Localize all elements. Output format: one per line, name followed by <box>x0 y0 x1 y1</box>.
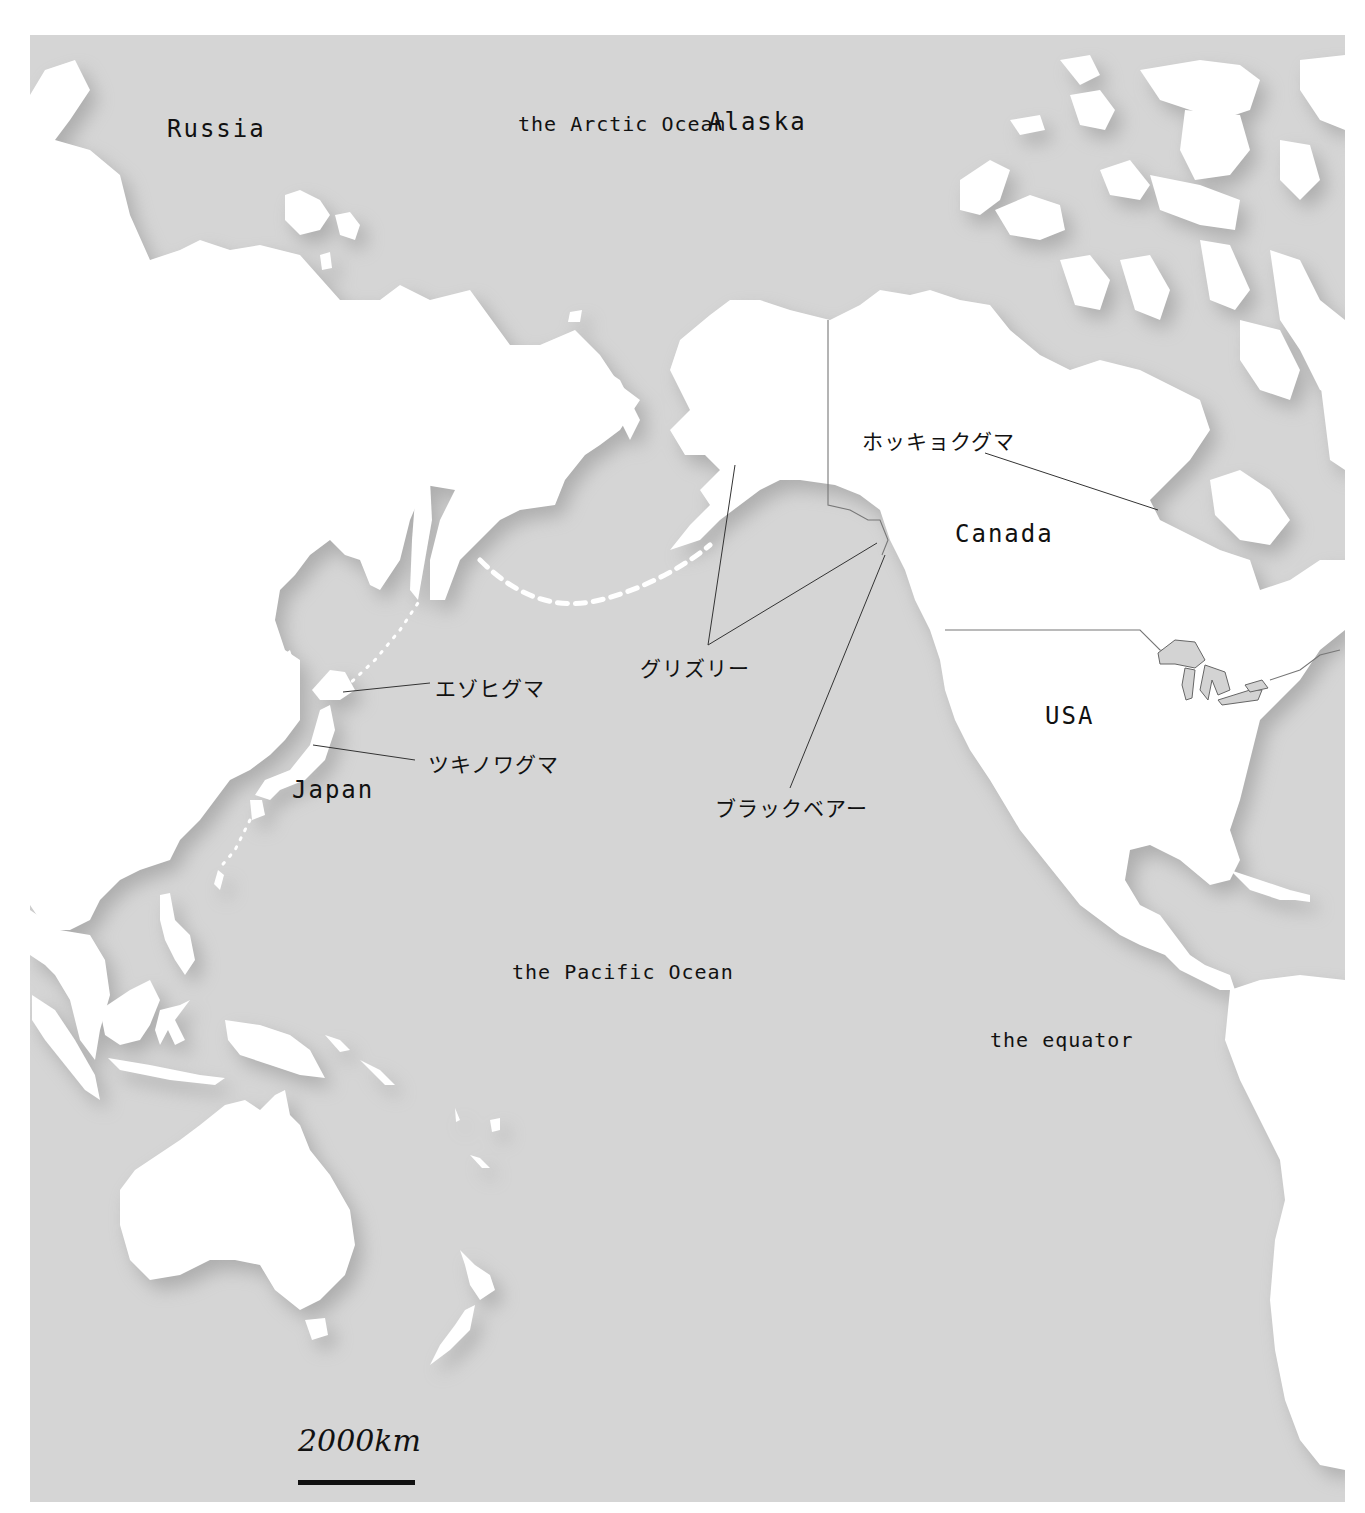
grizzly-leader-2 <box>708 543 877 645</box>
kuril-islands <box>345 600 420 688</box>
map-graphic <box>30 35 1345 1502</box>
ryukyu-islands <box>218 820 250 870</box>
japan-label: Japan <box>292 776 374 804</box>
aleutian-islands <box>480 545 710 604</box>
pacific-ocean-label: the Pacific Ocean <box>512 960 734 984</box>
grizzly-label: グリズリー <box>640 652 750 682</box>
equator-label: the equator <box>990 1028 1133 1052</box>
scale-bar <box>298 1480 415 1485</box>
usa-label: USA <box>1045 702 1094 730</box>
ezo-brown-bear-label: エゾヒグマ <box>435 672 545 702</box>
asian-black-bear-label: ツキノワグマ <box>428 748 559 778</box>
scale-label: 2000km <box>298 1423 421 1458</box>
black-bear-leader <box>790 555 885 788</box>
russia-label: Russia <box>167 115 266 143</box>
arctic-ocean-label: the Arctic Ocean <box>518 112 727 136</box>
polar-bear-label: ホッキョクグマ <box>862 425 1015 455</box>
black-bear-label: ブラックベアー <box>715 792 868 822</box>
map-canvas <box>30 35 1345 1502</box>
landmasses <box>30 55 1345 1470</box>
canada-label: Canada <box>955 520 1054 548</box>
alaska-label: Alaska <box>708 108 807 136</box>
